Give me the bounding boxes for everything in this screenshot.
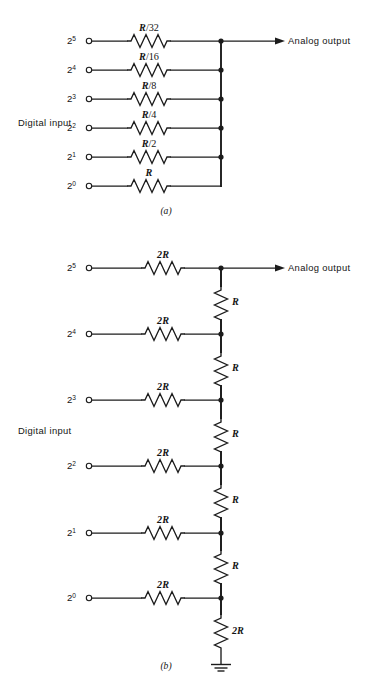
circuit-diagram-canvas: 25 R/32 24 R/16 23 R/8: [0, 0, 366, 688]
panel-a-row-3: 22 R/4: [67, 109, 224, 135]
bit-label-a-4: 21: [67, 151, 76, 163]
bit-label-b-5: 20: [67, 592, 76, 604]
panel-b-row-3: 22 2R: [67, 447, 224, 473]
resistor-label-a-3: R/4: [141, 109, 157, 120]
panel-a-row-0: 25 R/32: [67, 22, 224, 48]
bit-label-a-2: 23: [67, 93, 76, 105]
input-terminal-b-5[interactable]: [86, 595, 91, 600]
bit-label-a-0: 25: [67, 35, 76, 47]
input-terminal-b-1[interactable]: [86, 331, 91, 336]
panel-b-row-4: 21 2R: [67, 514, 224, 540]
ground-icon: [211, 665, 231, 672]
panel-a-row-4: 21 R/2: [67, 138, 224, 164]
resistor-a-1: [127, 64, 171, 77]
resistor-b-5: [141, 592, 185, 605]
input-terminal-a-1[interactable]: [86, 67, 91, 72]
input-terminal-a-0[interactable]: [86, 38, 91, 43]
resistor-a-2: [127, 93, 171, 106]
resistor-b-0: [141, 262, 185, 275]
resistor-label-a-1: R/16: [138, 51, 159, 62]
resistor-a-0: [127, 35, 171, 48]
input-terminal-b-2[interactable]: [86, 397, 91, 402]
resistor-a-3: [127, 122, 171, 135]
input-terminal-b-4[interactable]: [86, 530, 91, 535]
panel-b-series-3: R: [215, 466, 240, 533]
input-terminal-a-3[interactable]: [86, 125, 91, 130]
panel-b-terminator: 2R: [211, 598, 244, 671]
resistor-b-3: [141, 460, 185, 473]
panel-b-row-0: 25 2R: [67, 249, 224, 275]
panel-b-row-5: 20 2R: [67, 579, 224, 605]
resistor-label-b-4: 2R: [156, 514, 169, 525]
bit-label-b-4: 21: [67, 527, 76, 539]
figure-root: 25 R/32 24 R/16 23 R/8: [0, 0, 366, 688]
resistor-label-a-4: R/2: [141, 138, 157, 149]
input-terminal-a-5[interactable]: [86, 183, 91, 188]
input-terminal-b-3[interactable]: [86, 463, 91, 468]
bit-label-b-2: 23: [67, 394, 76, 406]
panel-b-row-1: 24 2R: [67, 315, 224, 341]
output-arrow-icon-a: [275, 37, 285, 44]
panel-a-row-1: 24 R/16: [67, 51, 224, 77]
panel-a: 25 R/32 24 R/16 23 R/8: [18, 22, 350, 217]
input-terminal-a-2[interactable]: [86, 96, 91, 101]
panel-a-row-2: 23 R/8: [67, 80, 224, 106]
analog-output-label-b: Analog output: [288, 262, 350, 273]
resistor-b-2: [141, 394, 185, 407]
panel-b-series-0: R: [215, 268, 240, 334]
bit-label-b-3: 22: [67, 460, 76, 472]
resistor-label-b-0: 2R: [156, 249, 169, 260]
series-resistor-label-b-0: R: [231, 296, 239, 307]
analog-output-label-a: Analog output: [288, 35, 350, 46]
resistor-label-b-1: 2R: [156, 315, 169, 326]
panel-a-row-5: 20 R: [67, 167, 221, 193]
bit-label-b-0: 25: [67, 262, 76, 274]
resistor-label-a-5: R: [145, 167, 153, 178]
resistor-a-4: [127, 151, 171, 164]
panel-b-series-2: R: [215, 400, 240, 466]
resistor-b-1: [141, 328, 185, 341]
panel-b-series-4: R: [215, 533, 240, 598]
series-resistor-label-b-2: R: [231, 428, 239, 439]
digital-input-label-b: Digital input: [18, 425, 72, 436]
resistor-label-b-5: 2R: [156, 579, 169, 590]
panel-b-series-1: R: [215, 334, 240, 400]
resistor-label-a-0: R/32: [138, 22, 159, 33]
terminating-resistor-b: [215, 614, 228, 664]
bit-label-a-1: 24: [67, 64, 76, 76]
terminating-resistor-label-b: 2R: [231, 625, 244, 636]
resistor-b-4: [141, 527, 185, 540]
series-resistor-label-b-3: R: [231, 494, 239, 505]
resistor-label-b-3: 2R: [156, 447, 169, 458]
panel-b-row-2: 23 2R: [67, 381, 224, 407]
series-resistor-label-b-1: R: [231, 362, 239, 373]
panel-caption-a: (a): [160, 205, 171, 217]
bit-label-b-1: 24: [67, 328, 76, 340]
series-resistor-label-b-4: R: [231, 560, 239, 571]
bit-label-a-5: 20: [67, 180, 76, 192]
input-terminal-b-0[interactable]: [86, 265, 91, 270]
output-arrow-icon-b: [275, 264, 285, 271]
resistor-label-a-2: R/8: [141, 80, 157, 91]
resistor-label-b-2: 2R: [156, 381, 169, 392]
input-terminal-a-4[interactable]: [86, 154, 91, 159]
panel-b: 25 2R R 24 2R R: [18, 249, 350, 672]
resistor-a-5: [127, 180, 171, 193]
panel-caption-b: (b): [160, 660, 171, 672]
digital-input-label-a: Digital input: [18, 117, 72, 128]
